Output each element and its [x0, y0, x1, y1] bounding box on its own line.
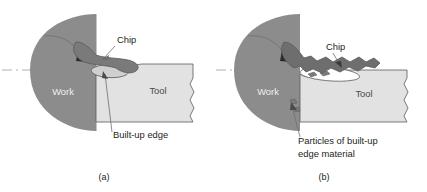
- workpiece-a: [30, 14, 96, 131]
- work-label-b: Work: [257, 86, 279, 97]
- workpiece-b: [234, 14, 300, 131]
- particles-label-b-line1: Particles of built-up: [298, 135, 378, 146]
- figure-built-up-edge: Work Tool Chip Built-up edge (a): [0, 0, 427, 192]
- caption-a: (a): [99, 172, 110, 182]
- chip-leader-a: [104, 46, 115, 58]
- panel-a-drawing: Work Tool Chip Built-up edge (a): [0, 0, 213, 192]
- panel-b-drawing: Work Tool Chip Particles of built-up edg…: [214, 0, 427, 192]
- tool-label-a: Tool: [149, 85, 166, 96]
- particles-label-b-line2: edge material: [298, 148, 355, 159]
- panel-b: Work Tool Chip Particles of built-up edg…: [214, 0, 427, 192]
- built-up-edge-label-a: Built-up edge: [113, 129, 168, 140]
- chip-label-b: Chip: [326, 41, 345, 52]
- tool-label-b: Tool: [355, 88, 372, 99]
- work-label-a: Work: [52, 86, 74, 97]
- panel-a: Work Tool Chip Built-up edge (a): [0, 0, 213, 192]
- chip-label-a: Chip: [117, 34, 136, 45]
- caption-b: (b): [319, 172, 330, 182]
